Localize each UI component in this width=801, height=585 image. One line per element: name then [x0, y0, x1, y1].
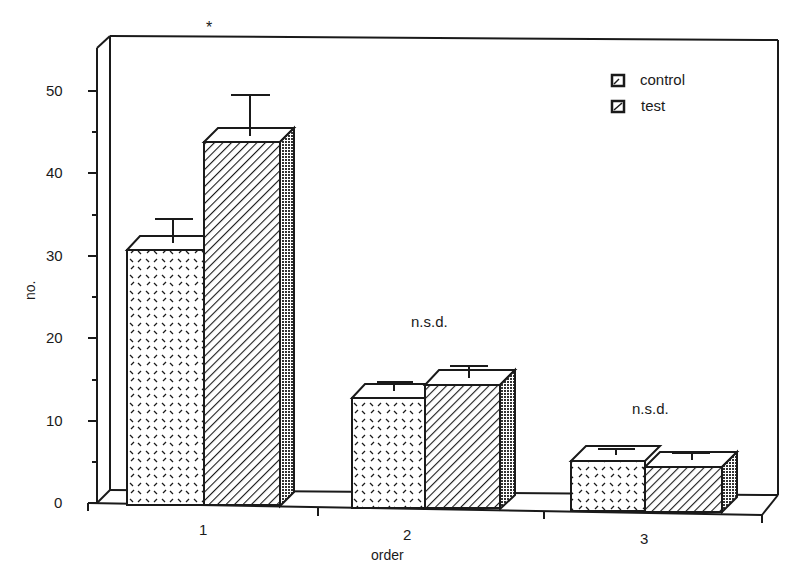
legend-label-control: control: [640, 71, 685, 88]
nsd-annotation-3: n.s.d.: [632, 400, 669, 417]
bar-control-3: [571, 461, 645, 511]
nsd-annotation-2: n.s.d.: [411, 313, 448, 330]
significance-annotation-1: *: [206, 19, 212, 37]
bar-test-3: [645, 467, 722, 512]
bar-group-2: [352, 366, 515, 509]
bar-control-1-top: [127, 236, 210, 250]
y-tick-label: 20: [46, 329, 63, 346]
bar-control-1: [127, 250, 204, 505]
y-tick-label: 50: [46, 82, 63, 99]
legend: [612, 75, 624, 112]
y-axis-label: no.: [22, 281, 38, 300]
bar-group-1: [127, 95, 294, 506]
bar-test-1: [204, 142, 280, 505]
bar-group-3: [571, 446, 737, 512]
y-axis: [88, 91, 97, 503]
y-tick-label: 30: [46, 247, 63, 264]
x-tick-label: 3: [640, 530, 648, 547]
x-tick-label: 1: [199, 521, 207, 538]
y-tick-label: 40: [46, 164, 63, 181]
x-tick-label: 2: [403, 526, 411, 543]
x-axis-label: order: [371, 547, 404, 563]
y-tick-label: 10: [46, 412, 63, 429]
legend-label-test: test: [641, 97, 665, 114]
bar-control-2: [352, 398, 425, 508]
bar-test-2: [425, 385, 500, 508]
y-tick-label: 0: [54, 494, 62, 511]
